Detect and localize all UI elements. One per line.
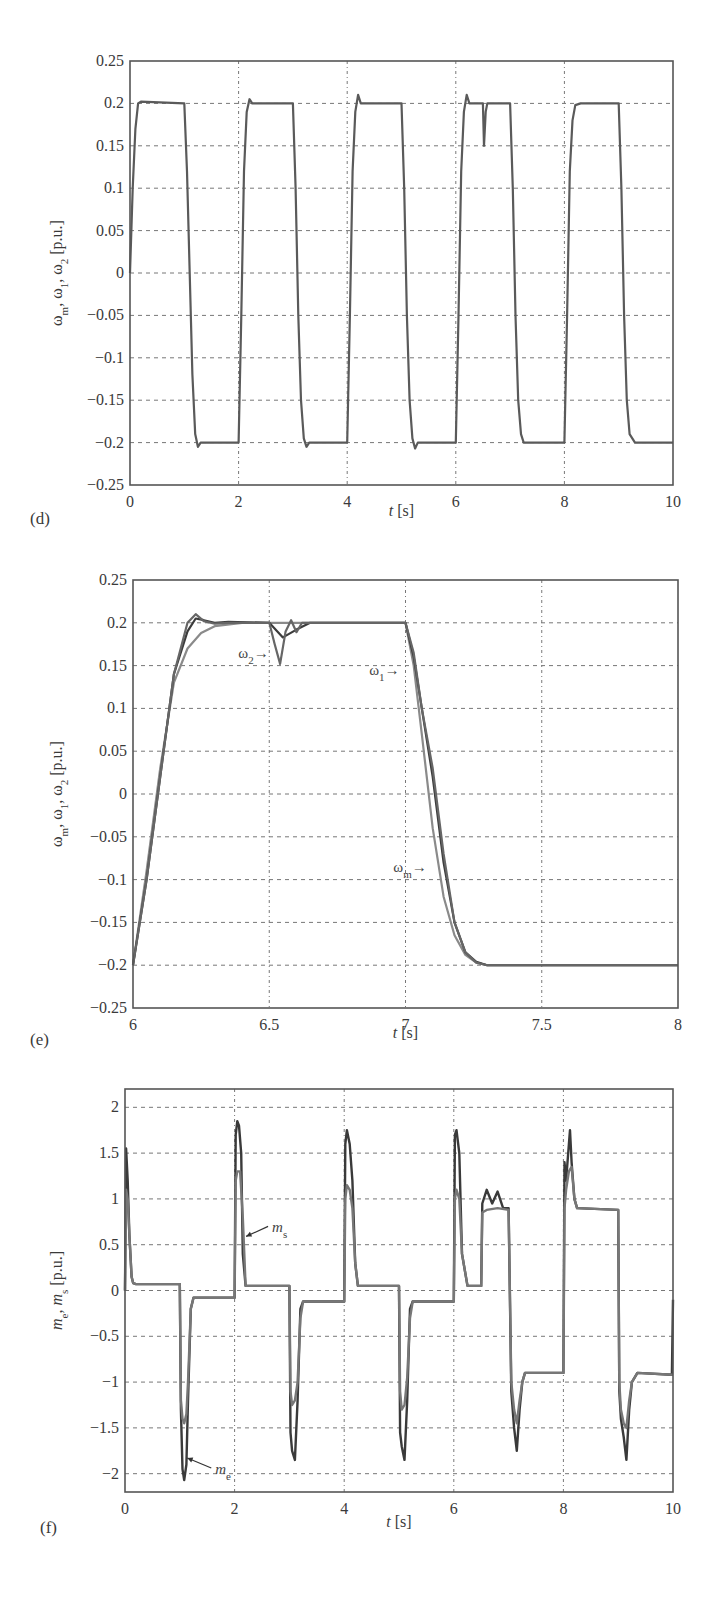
y-tick-label: −0.2: [98, 956, 127, 973]
x-tick-label: 8: [674, 1016, 682, 1033]
y-tick-label: −0.5: [90, 1327, 119, 1344]
x-tick-label: 10: [665, 1500, 681, 1517]
y-tick-label: −1: [102, 1373, 119, 1390]
y-tick-label: 0.05: [96, 222, 124, 239]
x-tick-label: 6.5: [259, 1016, 279, 1033]
x-tick-label: 6: [450, 1500, 458, 1517]
y-axis-label: ωm, ω1, ω2 [p.u.]: [48, 741, 70, 847]
panel-label: (f): [40, 1518, 57, 1537]
chart-f: 21.510.50−0.5−1−1.5−20246810t [s]me, ms …: [40, 1089, 681, 1537]
y-tick-label: −1.5: [90, 1419, 119, 1436]
x-tick-label: 4: [343, 493, 351, 510]
x-tick-label: 10: [665, 493, 681, 510]
y-tick-label: −0.1: [95, 349, 124, 366]
y-tick-label: 0.25: [96, 52, 124, 69]
x-tick-label: 7.5: [532, 1016, 552, 1033]
panel-label: (d): [30, 509, 50, 528]
y-tick-label: 0.2: [107, 614, 127, 631]
x-tick-label: 6: [129, 1016, 137, 1033]
annotation-ms: ms: [272, 1219, 287, 1240]
y-tick-label: 0: [111, 1282, 119, 1299]
y-tick-label: 2: [111, 1098, 119, 1115]
y-tick-label: −0.1: [98, 871, 127, 888]
x-tick-label: 8: [559, 1500, 567, 1517]
y-tick-label: 1.5: [99, 1144, 119, 1161]
annotation-ω2: ω2→: [238, 645, 268, 666]
chart-e: 0.250.20.150.10.050−0.05−0.1−0.15−0.2−0.…: [30, 571, 682, 1049]
y-tick-label: 0.15: [99, 657, 127, 674]
annotation-ω1: ω1→: [369, 662, 399, 683]
x-tick-label: 0: [121, 1500, 129, 1517]
y-tick-label: 0.2: [104, 94, 124, 111]
chart-d: 0.250.20.150.10.050−0.05−0.1−0.15−0.2−0.…: [30, 52, 681, 528]
x-tick-label: 6: [452, 493, 460, 510]
x-tick-label: 2: [235, 493, 243, 510]
x-axis-label: t [s]: [386, 1513, 411, 1530]
y-tick-label: −0.2: [95, 434, 124, 451]
x-axis-label: t [s]: [389, 502, 414, 519]
y-tick-label: −2: [102, 1465, 119, 1482]
series-line--m-1-2-overlapping-: [130, 95, 673, 449]
y-tick-label: −0.15: [90, 913, 127, 930]
y-tick-label: 0.15: [96, 137, 124, 154]
y-tick-label: −0.05: [90, 828, 127, 845]
x-tick-label: 2: [231, 1500, 239, 1517]
y-tick-label: −0.15: [87, 391, 124, 408]
y-tick-label: −0.25: [90, 999, 127, 1016]
y-tick-label: 1: [111, 1190, 119, 1207]
y-tick-label: 0: [119, 785, 127, 802]
y-axis-label: ωm, ω1, ω2 [p.u.]: [48, 220, 70, 326]
y-tick-label: 0.5: [99, 1236, 119, 1253]
y-tick-label: 0.25: [99, 571, 127, 588]
x-tick-label: 4: [340, 1500, 348, 1517]
annotation-me: me: [215, 1461, 231, 1482]
x-tick-label: 0: [126, 493, 134, 510]
x-tick-label: 8: [560, 493, 568, 510]
annotation-ωm: ωm→: [393, 859, 426, 880]
y-tick-label: 0: [116, 264, 124, 281]
figure-canvas: 0.250.20.150.10.050−0.05−0.1−0.15−0.2−0.…: [0, 0, 721, 1620]
series-line-ms: [125, 1167, 673, 1428]
y-axis-label: me, ms [p.u.]: [48, 1251, 70, 1330]
y-tick-label: 0.1: [104, 179, 124, 196]
y-tick-label: −0.05: [87, 306, 124, 323]
y-tick-label: 0.1: [107, 699, 127, 716]
y-tick-label: 0.05: [99, 742, 127, 759]
x-axis-label: t [s]: [393, 1024, 418, 1041]
y-tick-label: −0.25: [87, 476, 124, 493]
panel-label: (e): [30, 1030, 49, 1049]
